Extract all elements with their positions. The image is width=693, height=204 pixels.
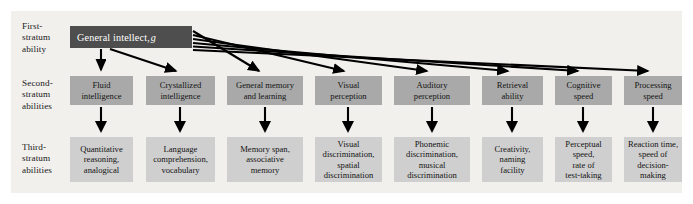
stratum3-box-visual-discrimination: Visual discrimination, spatial discrimin… — [315, 137, 382, 182]
stratum3-box-creativity-naming-facility: Creativity, naming facility — [482, 137, 543, 182]
stratum2-box-general-memory-and-learning: General memory and learning — [227, 76, 303, 105]
general-intellect-box: General intellect,g — [70, 26, 192, 48]
stratum2-box-cognitive-speed: Cognitive speed — [555, 76, 612, 105]
stratum3-box-quantitative-reasoning: Quantitative reasoning, analogical — [70, 137, 133, 182]
stratum2-box-visual-perception: Visual perception — [315, 76, 382, 105]
stratum2-box-processing-speed: Processing speed — [624, 76, 682, 105]
row-label-third-stratum: Third- stratum abilities — [22, 142, 52, 176]
general-intellect-label: General intellect, — [77, 32, 150, 43]
stratum3-box-language-comprehension: Language comprehension, vocabulary — [146, 137, 215, 182]
stratum2-box-auditory-perception: Auditory perception — [394, 76, 470, 105]
stratum3-box-reaction-time: Reaction time, speed of decision- making — [624, 137, 682, 182]
stratum2-box-fluid-intelligence: Fluid intelligence — [70, 76, 133, 105]
stratum2-box-crystallized-intelligence: Crystallized intelligence — [146, 76, 215, 105]
general-intellect-symbol: g — [150, 32, 156, 43]
stratum3-box-perceptual-speed: Perceptual speed, rate of test-taking — [555, 137, 612, 182]
stratum3-box-phonemic-discrimination: Phonemic discrimination, musical discrim… — [394, 137, 470, 182]
stratum2-box-retrieval-ability: Retrieval ability — [482, 76, 543, 105]
three-stratum-diagram: First- stratum ability Second- stratum a… — [0, 0, 693, 204]
stratum3-box-memory-span: Memory span, associative memory — [227, 137, 303, 182]
row-label-first-stratum: First- stratum ability — [22, 21, 50, 55]
row-label-second-stratum: Second- stratum abilities — [22, 78, 53, 112]
